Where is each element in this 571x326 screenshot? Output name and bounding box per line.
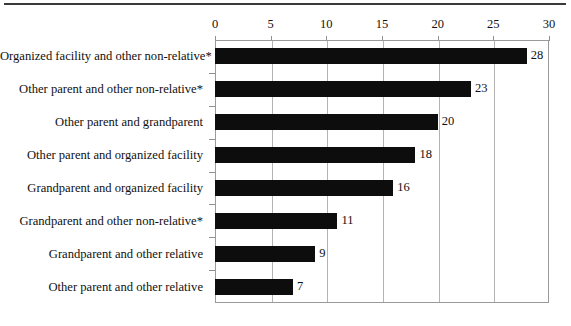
category-label: Other parent and grandparent (0, 114, 203, 130)
bar[interactable] (215, 246, 315, 262)
category-label: Grandparent and other relative (0, 246, 203, 262)
bars-layer: 28232018161197 (215, 40, 549, 303)
bar-value-label: 20 (438, 113, 455, 130)
category-labels: Organized facility and other non-relativ… (0, 40, 209, 303)
x-tick-label: 15 (367, 16, 397, 32)
top-horizontal-rule (4, 3, 566, 5)
bar[interactable] (215, 147, 415, 163)
x-axis-tick-labels: 051015202530 (0, 16, 571, 32)
category-label: Other parent and organized facility (0, 147, 203, 163)
bar-row[interactable]: 9 (215, 237, 549, 270)
x-tick-label: 25 (478, 16, 508, 32)
category-label: Organized facility and other non-relativ… (0, 48, 203, 64)
bar-row[interactable]: 11 (215, 204, 549, 237)
figure-container: 051015202530 28232018161197 Organized fa… (0, 0, 571, 326)
bar-value-label: 7 (293, 278, 303, 295)
bar[interactable] (215, 81, 471, 97)
bar[interactable] (215, 279, 293, 295)
bar-row[interactable]: 23 (215, 73, 549, 106)
bar-value-label: 23 (471, 80, 488, 97)
bar-value-label: 9 (315, 245, 325, 262)
bar-row[interactable]: 16 (215, 172, 549, 205)
bar-value-label: 28 (527, 47, 544, 64)
bar[interactable] (215, 114, 438, 130)
bar-value-label: 11 (337, 212, 353, 229)
bar[interactable] (215, 48, 527, 64)
bar[interactable] (215, 213, 337, 229)
x-tick-label: 20 (423, 16, 453, 32)
category-label: Other parent and other relative (0, 279, 203, 295)
bar-value-label: 16 (393, 179, 410, 196)
x-tick-label: 30 (534, 16, 564, 32)
x-tick-label: 5 (256, 16, 286, 32)
x-tick-mark (549, 36, 550, 41)
category-label: Grandparent and organized facility (0, 180, 203, 196)
x-tick-label: 10 (311, 16, 341, 32)
bar-value-label: 18 (415, 146, 432, 163)
bar[interactable] (215, 180, 393, 196)
bar-row[interactable]: 28 (215, 40, 549, 73)
bar-row[interactable]: 18 (215, 139, 549, 172)
category-label: Other parent and other non-relative* (0, 81, 203, 97)
category-label: Grandparent and other non-relative* (0, 213, 203, 229)
x-tick-label: 0 (200, 16, 230, 32)
bar-row[interactable]: 20 (215, 106, 549, 139)
bar-row[interactable]: 7 (215, 270, 549, 303)
